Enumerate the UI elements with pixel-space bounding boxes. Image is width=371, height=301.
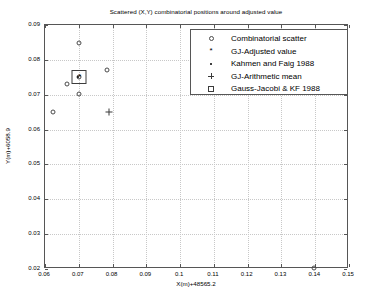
gridline-vertical	[146, 25, 147, 267]
marker-circle-open	[51, 110, 56, 115]
gridline-vertical	[113, 25, 114, 267]
y-axis-label-wrap: Y(m)+6058.9	[0, 24, 12, 268]
x-axis-label: X(m)+48565.2	[44, 280, 348, 288]
figure-canvas: Scattered (X,Y) combinatorial positions …	[0, 0, 371, 301]
y-axis-tick	[344, 130, 347, 131]
x-axis-tick	[146, 264, 147, 267]
legend-item[interactable]: Kahmen and Faig 1988	[191, 57, 347, 70]
x-axis-tick	[281, 25, 282, 28]
x-axis-tick-label: 0.12	[232, 270, 262, 278]
legend: Combinatorial scatter*GJ-Adjusted valueK…	[190, 29, 348, 95]
gridline-horizontal	[45, 234, 347, 235]
x-axis-tick	[214, 264, 215, 267]
marker-circle-open	[209, 36, 214, 41]
y-axis-tick	[45, 60, 48, 61]
legend-item[interactable]: GJ-Arithmetic mean	[191, 70, 347, 83]
gridline-horizontal	[45, 130, 347, 131]
y-axis-tick	[344, 199, 347, 200]
marker-asterisk: *	[77, 74, 83, 80]
legend-item[interactable]: Combinatorial scatter	[191, 32, 347, 45]
chart-title: Scattered (X,Y) combinatorial positions …	[44, 8, 348, 16]
gridline-horizontal	[45, 199, 347, 200]
data-point: *	[77, 74, 83, 80]
y-axis-tick	[45, 130, 48, 131]
x-axis-tick	[113, 264, 114, 267]
legend-symbol	[205, 82, 217, 95]
x-axis-tick	[113, 25, 114, 28]
gridline-vertical	[180, 25, 181, 267]
legend-symbol	[205, 70, 217, 83]
x-axis-tick	[79, 264, 80, 267]
marker-circle-open	[76, 40, 81, 45]
x-axis-tick	[79, 25, 80, 28]
marker-circle-open	[64, 82, 69, 87]
y-axis-tick	[344, 234, 347, 235]
legend-label: GJ-Arithmetic mean	[231, 70, 302, 83]
gridline-horizontal	[45, 164, 347, 165]
data-point	[64, 82, 69, 87]
marker-plus	[106, 109, 113, 116]
x-axis-tick-label: 0.11	[198, 270, 228, 278]
y-axis-tick-label: 0.05	[18, 159, 40, 167]
data-point	[105, 68, 110, 73]
x-axis-tick-label: 0.15	[333, 270, 363, 278]
gridline-vertical	[79, 25, 80, 267]
y-axis-tick	[45, 25, 48, 26]
data-point	[51, 110, 56, 115]
x-axis-tick	[281, 264, 282, 267]
data-point	[106, 109, 113, 116]
y-axis-tick-label: 0.02	[18, 264, 40, 272]
y-axis-tick-label: 0.03	[18, 229, 40, 237]
legend-symbol	[205, 32, 217, 45]
x-axis-tick	[349, 25, 350, 28]
y-axis-tick-label: 0.09	[18, 20, 40, 28]
y-axis-label: Y(m)+6058.9	[4, 34, 12, 258]
x-axis-tick	[45, 264, 46, 267]
marker-square-open	[208, 86, 214, 92]
y-axis-tick	[45, 164, 48, 165]
y-axis-tick	[45, 199, 48, 200]
marker-dot	[210, 63, 212, 65]
x-axis-tick-label: 0.1	[164, 270, 194, 278]
y-axis-tick-label: 0.07	[18, 90, 40, 98]
marker-asterisk: *	[208, 48, 214, 54]
legend-label: Combinatorial scatter	[231, 32, 307, 45]
x-axis-tick-label: 0.14	[299, 270, 329, 278]
data-point	[76, 40, 81, 45]
data-point	[76, 91, 81, 96]
x-axis-tick	[180, 264, 181, 267]
marker-plus	[208, 73, 214, 79]
y-axis-tick	[45, 95, 48, 96]
marker-circle-open	[105, 68, 110, 73]
x-axis-tick	[315, 25, 316, 28]
x-axis-tick	[180, 25, 181, 28]
x-axis-tick-label: 0.13	[265, 270, 295, 278]
y-axis-tick	[344, 164, 347, 165]
legend-symbol	[205, 57, 217, 70]
legend-label: GJ-Adjusted value	[231, 45, 296, 58]
y-axis-tick	[344, 25, 347, 26]
x-axis-tick-label: 0.09	[130, 270, 160, 278]
y-axis-tick-label: 0.06	[18, 125, 40, 133]
x-axis-tick	[349, 264, 350, 267]
x-axis-tick-label: 0.08	[97, 270, 127, 278]
x-axis-tick	[146, 25, 147, 28]
x-axis-tick-label: 0.07	[63, 270, 93, 278]
legend-symbol: *	[205, 45, 217, 58]
x-axis-tick	[248, 264, 249, 267]
legend-label: Gauss-Jacobi & KF 1988	[231, 82, 320, 95]
marker-circle-open	[76, 91, 81, 96]
legend-item[interactable]: Gauss-Jacobi & KF 1988	[191, 82, 347, 95]
x-axis-tick	[214, 25, 215, 28]
legend-item[interactable]: *GJ-Adjusted value	[191, 45, 347, 58]
y-axis-tick-label: 0.04	[18, 194, 40, 202]
y-axis-tick-label: 0.08	[18, 55, 40, 63]
legend-label: Kahmen and Faig 1988	[231, 57, 314, 70]
y-axis-tick	[45, 234, 48, 235]
x-axis-tick	[248, 25, 249, 28]
